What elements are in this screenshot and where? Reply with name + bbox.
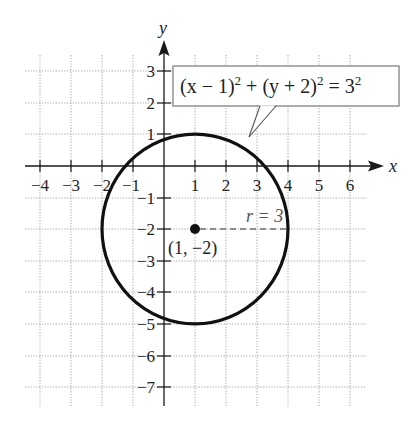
x-tick-label: −4 — [31, 176, 50, 195]
x-axis-label: x — [388, 156, 397, 176]
coordinate-plane: −4 −3 −2 −1 1 2 3 4 5 6 3 2 1 −1 −2 −3 −… — [0, 0, 414, 432]
y-tick-label: −3 — [137, 252, 155, 271]
circle-graph-figure: −4 −3 −2 −1 1 2 3 4 5 6 3 2 1 −1 −2 −3 −… — [0, 0, 414, 432]
x-tick-label: 4 — [284, 176, 293, 195]
y-tick-label: 3 — [147, 62, 156, 81]
x-tick-label: 3 — [253, 176, 262, 195]
y-tick-label: −7 — [137, 378, 156, 397]
equation-text: (x − 1)2 + (y + 2)2 = 32 — [180, 73, 361, 98]
x-tick-label: 5 — [315, 176, 324, 195]
equation-callout: (x − 1)2 + (y + 2)2 = 32 — [173, 66, 399, 137]
y-axis-label: y — [157, 18, 167, 38]
x-tick-label: 2 — [222, 176, 231, 195]
y-tick-label: 2 — [147, 94, 156, 113]
x-tick-label: 6 — [346, 176, 355, 195]
center-label: (1, −2) — [168, 238, 217, 259]
y-tick-labels: 3 2 1 −1 −2 −3 −4 −5 −6 −7 — [137, 62, 156, 397]
y-tick-label: 1 — [147, 125, 156, 144]
x-tick-label: 1 — [191, 176, 200, 195]
y-tick-label: −5 — [137, 315, 155, 334]
y-tick-label: −6 — [137, 347, 155, 366]
radius-label: r = 3 — [246, 206, 283, 226]
x-tick-labels: −4 −3 −2 −1 1 2 3 4 5 6 — [31, 176, 354, 195]
center-point — [190, 224, 200, 234]
y-tick-label: −4 — [137, 283, 156, 302]
x-tick-label: −3 — [62, 176, 80, 195]
y-tick-label: −1 — [137, 189, 155, 208]
y-tick-label: −2 — [137, 220, 155, 239]
